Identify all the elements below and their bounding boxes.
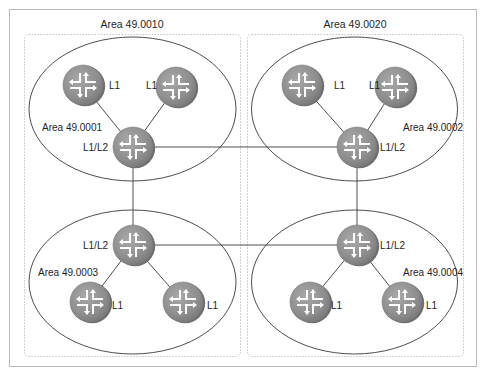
router-r3b[interactable] bbox=[163, 282, 205, 323]
router-label-r4a: L1 bbox=[331, 300, 343, 311]
outer-area-label-right: Area 49.0020 bbox=[323, 18, 386, 30]
router-label-r4h: L1/L2 bbox=[380, 240, 405, 251]
router-label-r1h: L1/L2 bbox=[83, 142, 108, 153]
router-icon bbox=[337, 225, 379, 266]
router-r3h[interactable] bbox=[113, 225, 155, 266]
router-label-r1b: L1 bbox=[146, 80, 158, 91]
router-icon bbox=[113, 225, 155, 266]
router-icon bbox=[113, 127, 155, 168]
router-r1b[interactable] bbox=[156, 67, 198, 108]
router-icon bbox=[382, 282, 424, 323]
area-label-49-0002: Area 49.0002 bbox=[403, 122, 463, 133]
isis-area-diagram: Area 49.0010 Area 49.0020 L1 L1 L1/L2 L1… bbox=[0, 0, 485, 377]
router-icon bbox=[163, 282, 205, 323]
router-r2a[interactable] bbox=[282, 65, 324, 106]
router-label-r3a: L1 bbox=[112, 300, 124, 311]
router-label-r3h: L1/L2 bbox=[83, 240, 108, 251]
router-r4b[interactable] bbox=[382, 282, 424, 323]
router-r1h[interactable] bbox=[113, 127, 155, 168]
router-icon bbox=[282, 65, 324, 106]
router-label-r2b: L1 bbox=[369, 80, 381, 91]
router-label-r2h: L1/L2 bbox=[380, 142, 405, 153]
router-r3a[interactable] bbox=[70, 282, 112, 323]
router-label-r1a: L1 bbox=[109, 80, 121, 91]
router-icon bbox=[70, 282, 112, 323]
router-icon bbox=[156, 67, 198, 108]
router-label-r2a: L1 bbox=[334, 80, 346, 91]
router-label-r3b: L1 bbox=[207, 300, 219, 311]
area-label-49-0001: Area 49.0001 bbox=[42, 122, 102, 133]
router-label-r4b: L1 bbox=[426, 300, 438, 311]
router-r2h[interactable] bbox=[337, 127, 379, 168]
router-r2b[interactable] bbox=[375, 67, 417, 108]
router-r1a[interactable] bbox=[63, 65, 105, 106]
router-icon bbox=[290, 282, 332, 323]
router-icon bbox=[375, 67, 417, 108]
router-r4h[interactable] bbox=[337, 225, 379, 266]
links bbox=[83, 85, 402, 302]
area-label-49-0003: Area 49.0003 bbox=[38, 267, 98, 278]
area-label-49-0004: Area 49.0004 bbox=[403, 267, 463, 278]
outer-area-label-left: Area 49.0010 bbox=[100, 18, 163, 30]
router-icon bbox=[337, 127, 379, 168]
router-icon bbox=[63, 65, 105, 106]
router-r4a[interactable] bbox=[290, 282, 332, 323]
